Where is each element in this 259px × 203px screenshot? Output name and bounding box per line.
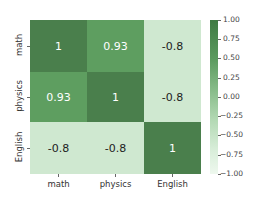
- heatmap-cell-physics-math: 0.93: [30, 72, 87, 122]
- colorbar: [210, 20, 218, 174]
- heatmap-cell-math-physics: 0.93: [87, 20, 144, 72]
- cbar-tick-5: [218, 97, 221, 98]
- y-tick-english: [27, 148, 30, 149]
- cbar-label-8: −0.75: [220, 150, 243, 159]
- heatmap-grid: 1 0.93 -0.8 0.93 1 -0.8 -0.8 -0.8 1: [30, 20, 201, 174]
- y-label-english: English: [14, 122, 24, 172]
- cbar-label-6: −0.25: [220, 111, 243, 120]
- x-tick-math: [58, 174, 59, 177]
- cbar-label-7: −0.50: [220, 130, 243, 139]
- heatmap-cell-physics-physics: 1: [87, 72, 144, 122]
- x-label-english: English: [144, 179, 201, 189]
- x-label-math: math: [30, 179, 87, 189]
- heatmap-cell-physics-english: -0.8: [144, 72, 201, 122]
- heatmap-cell-english-english: 1: [144, 122, 201, 174]
- y-tick-physics: [27, 97, 30, 98]
- y-label-math: math: [14, 20, 24, 70]
- x-tick-english: [172, 174, 173, 177]
- y-tick-math: [27, 46, 30, 47]
- cbar-tick-4: [218, 78, 221, 79]
- cbar-label-9: −1.00: [220, 169, 243, 178]
- heatmap-cell-math-math: 1: [30, 20, 87, 72]
- cbar-tick-3: [218, 58, 221, 59]
- cbar-label-5: 0.00: [223, 92, 240, 101]
- cbar-tick-1: [218, 20, 221, 21]
- heatmap-cell-math-english: -0.8: [144, 20, 201, 72]
- heatmap-cell-english-math: -0.8: [30, 122, 87, 174]
- x-label-physics: physics: [87, 179, 144, 189]
- cbar-label-3: 0.50: [223, 53, 240, 62]
- cbar-label-4: 0.25: [223, 73, 240, 82]
- y-label-physics: physics: [14, 71, 24, 121]
- x-tick-physics: [115, 174, 116, 177]
- cbar-label-1: 1.00: [223, 15, 240, 24]
- cbar-label-2: 0.75: [223, 34, 240, 43]
- cbar-tick-2: [218, 39, 221, 40]
- heatmap-cell-english-physics: -0.8: [87, 122, 144, 174]
